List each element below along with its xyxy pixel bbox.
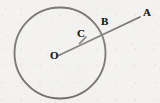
background-rect [0, 0, 160, 103]
geometry-figure: O C B A [0, 0, 160, 103]
point-label-c: C [77, 28, 85, 39]
point-label-b: B [101, 16, 108, 27]
point-label-a: A [143, 7, 151, 18]
point-label-o: O [50, 50, 59, 61]
diagram-canvas [0, 0, 160, 103]
